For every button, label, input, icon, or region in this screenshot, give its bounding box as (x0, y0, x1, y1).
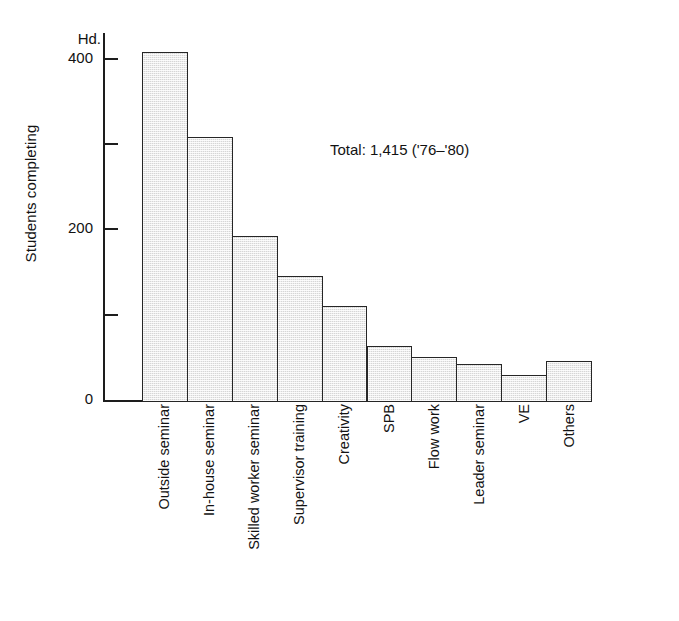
x-axis-label: VE (516, 404, 531, 423)
y-axis-tick (105, 143, 118, 145)
x-axis-label: Supervisor training (292, 404, 307, 525)
total-annotation: Total: 1,415 ('76–'80) (330, 141, 469, 158)
plot-area (142, 33, 591, 402)
y-axis-tick-label: 200 (41, 219, 93, 236)
x-axis-label-slot: Others (546, 404, 591, 604)
x-axis-label: Leader seminar (471, 404, 486, 505)
bar (411, 357, 457, 402)
bar (456, 364, 502, 402)
bar (322, 306, 368, 402)
x-axis-label-slot: Skilled worker seminar (232, 404, 277, 604)
bar (187, 137, 233, 402)
x-axis-label-slot: Creativity (322, 404, 367, 604)
x-axis-label: SPB (382, 404, 397, 433)
bar (142, 52, 188, 402)
bar-chart-figure: Students completing Hd. 0200400 Total: 1… (0, 0, 679, 621)
y-axis-tick (105, 58, 118, 60)
x-axis-label-slot: SPB (367, 404, 412, 604)
y-axis-tick (105, 228, 118, 230)
x-axis-label-slot: In-house seminar (187, 404, 232, 604)
bar (367, 346, 413, 402)
y-axis-unit-label: Hd. (61, 30, 101, 47)
x-axis-label: Outside seminar (157, 404, 172, 510)
x-axis-label: In-house seminar (202, 404, 217, 516)
x-axis-label-slot: Flow work (411, 404, 456, 604)
x-axis-label-slot: Supervisor training (277, 404, 322, 604)
bar (501, 375, 547, 402)
x-axis-label: Flow work (427, 404, 442, 469)
y-axis-line (103, 33, 105, 402)
bar (232, 236, 278, 402)
x-axis-label: Others (561, 404, 576, 448)
bar (546, 361, 592, 402)
x-axis-label-slot: VE (501, 404, 546, 604)
x-axis-label-slot: Outside seminar (142, 404, 187, 604)
bar (277, 276, 323, 402)
y-axis-tick (105, 314, 118, 316)
y-axis-tick-label: 0 (33, 390, 93, 407)
y-axis-tick-label: 400 (41, 49, 93, 66)
y-axis-title: Students completing (22, 94, 39, 294)
x-axis-label: Skilled worker seminar (247, 404, 262, 550)
x-axis-labels: Outside seminarIn-house seminarSkilled w… (142, 404, 591, 604)
x-axis-label: Creativity (337, 404, 352, 464)
x-axis-label-slot: Leader seminar (456, 404, 501, 604)
